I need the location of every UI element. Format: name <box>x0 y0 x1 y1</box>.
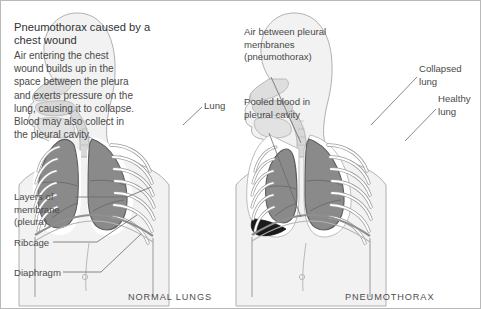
label-collapsed-lung: Collapsed lung <box>419 63 475 88</box>
label-pooled-blood: Pooled blood in pleural cavity <box>244 96 320 121</box>
label-air-between-pleural-membranes: Air between pleural membranes (pneumotho… <box>244 26 328 64</box>
label-healthy-lung: Healthy lung <box>438 93 481 118</box>
page-title: Pneumothorax caused by a chest wound <box>14 21 154 48</box>
leader-lung <box>183 107 202 125</box>
label-pleura: Layers of membrane (pleura) <box>14 191 92 229</box>
leader-collapsed-lung <box>371 77 417 125</box>
caption-pneumothorax: PNEUMOTHORAX <box>345 292 434 302</box>
label-ribcage: Ribcage <box>14 237 84 250</box>
leader-healthy-lung <box>405 109 436 141</box>
label-diaphragm: Diaphragm <box>14 267 92 280</box>
intro-paragraph: Air entering the chest wound builds up i… <box>14 49 140 141</box>
caption-normal-lungs: NORMAL LUNGS <box>128 292 212 302</box>
diagram-frame: Pneumothorax caused by a chest wound Air… <box>0 0 481 309</box>
